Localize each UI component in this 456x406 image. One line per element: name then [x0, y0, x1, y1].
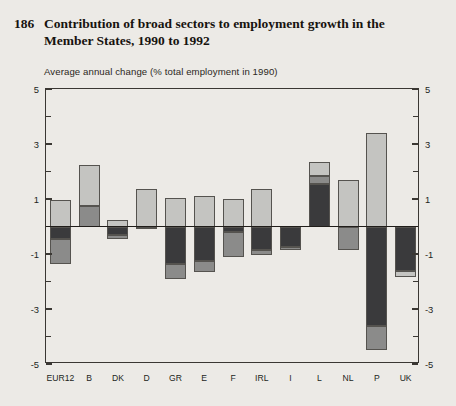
bar-segment-B-industry	[79, 206, 100, 227]
bar-segment-IRL-services	[251, 189, 272, 226]
y-axis-label-right: 5	[425, 84, 430, 95]
bar-segment-NL-industry	[338, 227, 359, 250]
bar-segment-DK-agriculture	[107, 227, 128, 235]
y-tick-major	[412, 88, 418, 89]
bar-segment-F-industry	[223, 232, 244, 257]
plot-area: 553311-1-1-3-3-5-5EUR12BDKDGREFIRLILNLPU…	[45, 88, 419, 363]
chart-subtitle: Average annual change (% total employmen…	[44, 66, 278, 77]
x-axis-label-D: D	[144, 373, 150, 383]
y-axis-label-right: 3	[425, 139, 430, 150]
bar-segment-EUR12-agriculture	[50, 227, 71, 239]
bar-segment-GR-services	[165, 198, 186, 227]
y-tick-major	[412, 253, 418, 254]
y-tick-major	[412, 363, 418, 364]
bar-segment-E-services	[194, 196, 215, 226]
y-tick-major	[46, 88, 52, 89]
y-axis-label-right: -3	[425, 304, 433, 315]
bar-segment-P-agriculture	[366, 227, 387, 326]
bar-segment-GR-agriculture	[165, 227, 186, 264]
bar-segment-EUR12-industry	[50, 239, 71, 264]
x-axis-label-B: B	[86, 373, 92, 383]
bar-segment-UK-services	[395, 271, 416, 278]
y-tick-minor	[46, 336, 51, 337]
y-tick-minor	[413, 116, 418, 117]
y-axis-label-right: 1	[425, 194, 430, 205]
y-axis-label-left: -5	[31, 359, 39, 370]
bar-segment-IRL-agriculture	[251, 227, 272, 250]
y-tick-minor	[46, 281, 51, 282]
x-axis-label-F: F	[230, 373, 235, 383]
bar-segment-L-industry	[309, 176, 330, 184]
figure-page: 186 Contribution of broad sectors to emp…	[0, 0, 456, 406]
x-axis-label-GR: GR	[169, 373, 182, 383]
bar-segment-F-services	[223, 199, 244, 227]
y-tick-major	[412, 198, 418, 199]
y-tick-minor	[46, 116, 51, 117]
x-axis-label-DK: DK	[112, 373, 124, 383]
y-tick-major	[46, 363, 52, 364]
y-tick-minor	[413, 171, 418, 172]
bar-segment-UK-agriculture	[395, 227, 416, 271]
bar-segment-L-agriculture	[309, 184, 330, 227]
x-axis-label-L: L	[317, 373, 322, 383]
y-tick-minor	[413, 336, 418, 337]
bar-segment-E-industry	[194, 261, 215, 272]
y-tick-major	[412, 308, 418, 309]
bar-segment-IRL-industry	[251, 250, 272, 256]
figure-header: 186 Contribution of broad sectors to emp…	[14, 16, 442, 49]
bar-segment-I-industry	[280, 247, 301, 250]
x-axis-label-E: E	[201, 373, 207, 383]
bar-segment-GR-industry	[165, 264, 186, 279]
y-axis-label-left: -1	[31, 249, 39, 260]
page-title: Contribution of broad sectors to employm…	[44, 16, 429, 49]
bar-segment-EUR12-services	[50, 200, 71, 226]
x-axis-label-I: I	[289, 373, 291, 383]
y-tick-minor	[413, 281, 418, 282]
y-tick-minor	[46, 171, 51, 172]
y-tick-major	[46, 143, 52, 144]
y-axis-label-left: 1	[34, 194, 39, 205]
x-axis-label-NL: NL	[343, 373, 354, 383]
y-axis-label-left: 3	[34, 139, 39, 150]
x-axis-label-EUR12: EUR12	[47, 373, 75, 383]
y-axis-label-left: -3	[31, 304, 39, 315]
bar-segment-DK-industry	[107, 235, 128, 239]
y-tick-major	[412, 143, 418, 144]
y-tick-major	[46, 198, 52, 199]
x-axis-label-P: P	[374, 373, 380, 383]
bar-segment-I-agriculture	[280, 227, 301, 248]
zero-axis-line	[46, 226, 418, 228]
bar-segment-E-agriculture	[194, 227, 215, 261]
y-axis-label-right: -1	[425, 249, 433, 260]
bar-segment-B-services	[79, 165, 100, 206]
bar-segment-P-industry	[366, 326, 387, 351]
x-axis-label-IRL: IRL	[255, 373, 268, 383]
y-axis-label-left: 5	[34, 84, 39, 95]
bar-segment-L-services	[309, 162, 330, 176]
figure-number: 186	[14, 16, 44, 32]
bar-segment-D-services	[136, 189, 157, 226]
y-tick-major	[46, 253, 52, 254]
y-tick-major	[46, 308, 52, 309]
x-axis-label-UK: UK	[400, 373, 412, 383]
bar-segment-P-services	[366, 133, 387, 227]
bar-segment-NL-services	[338, 180, 359, 227]
y-axis-label-right: -5	[425, 359, 433, 370]
